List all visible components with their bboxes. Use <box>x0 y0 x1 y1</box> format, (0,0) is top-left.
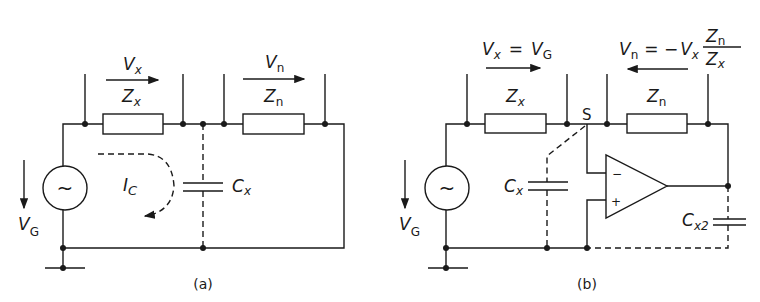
label-vg-a: VG <box>18 214 39 239</box>
label-zx-b: Zx <box>505 86 526 109</box>
caption-b: (b) <box>577 276 597 292</box>
fraction-numerator: Zn <box>705 26 725 48</box>
label-cx-a: Cx <box>232 176 252 198</box>
label-vn-a: Vn <box>265 52 284 75</box>
capacitor-cx-a <box>183 183 223 191</box>
label-vx-a: Vx <box>123 54 143 77</box>
label-ic: IC <box>123 175 138 198</box>
caption-a: (a) <box>193 276 213 292</box>
cx-lead-b <box>547 126 585 248</box>
label-cx2: Cx2 <box>682 210 709 233</box>
opamp-minus: − <box>612 167 622 181</box>
terminals-a <box>85 74 325 124</box>
impedance-zn-b <box>627 114 687 133</box>
opamp-plus: + <box>611 195 621 209</box>
capacitor-cx-b <box>528 182 568 190</box>
impedance-zn-a <box>243 114 304 134</box>
source-symbol-b: ~ <box>439 176 456 200</box>
panel-a: ~ Vx Vn Zx Zn VG IC Cx (a) <box>18 52 344 292</box>
impedance-zx-a <box>103 114 163 134</box>
label-zx-a: Zx <box>121 86 142 109</box>
circuit-diagram: ~ Vx Vn Zx Zn VG IC Cx (a) <box>0 0 760 302</box>
label-vg-b: VG <box>399 214 420 239</box>
panel-b: ~ − + Vx=VG Vn= −Vx Zn <box>399 26 746 292</box>
label-zn-a: Zn <box>263 86 283 109</box>
label-cx-b: Cx <box>504 176 524 198</box>
capacitor-cx2 <box>713 219 746 225</box>
impedance-zx-b <box>485 114 546 133</box>
ground-b <box>428 248 468 268</box>
equation-vx-vg: Vx=VG <box>482 39 552 62</box>
label-zn-b: Zn <box>646 86 666 109</box>
label-node-s: S <box>582 106 592 124</box>
wire-top-a <box>63 124 344 248</box>
fraction-denominator: Zx <box>705 49 726 71</box>
equation-vn: Vn= −Vx <box>619 39 700 62</box>
source-symbol-a: ~ <box>57 176 74 200</box>
ground-a <box>45 248 85 268</box>
